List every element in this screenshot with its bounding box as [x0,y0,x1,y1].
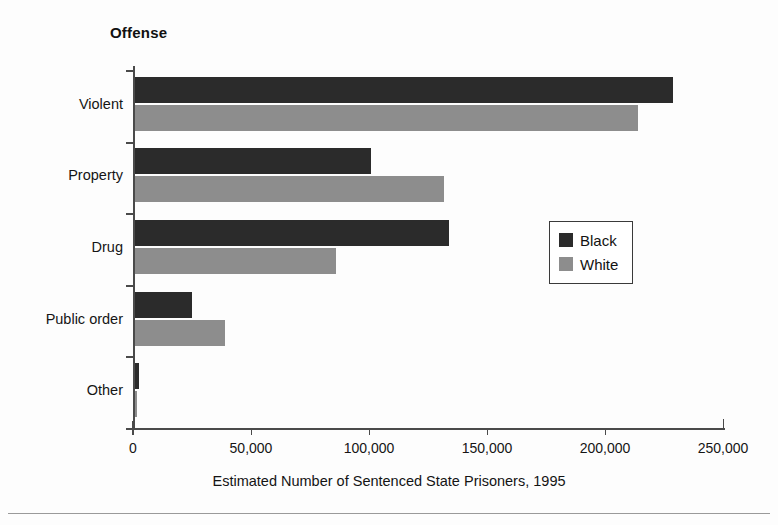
bar-white-drug [135,248,336,274]
x-axis-tick [723,419,724,429]
x-axis-tick [369,428,370,435]
bar-black-drug [135,220,449,246]
y-axis-tick [126,142,134,144]
legend-item-white[interactable]: White [559,252,618,276]
bar-white-violent [135,105,638,131]
x-axis-tick-label: 50,000 [230,440,273,456]
bar-black-property [135,148,371,174]
x-axis-tick-label: 200,000 [580,440,631,456]
chart-legend: Black White [549,221,633,284]
bar-white-public-order [135,320,225,346]
bar-white-property [135,176,444,202]
y-axis-tick [126,428,134,430]
x-axis-tick [251,428,252,435]
y-axis-category-label: Other [87,382,123,398]
bar-white-other [135,391,137,417]
x-axis-tick [605,428,606,435]
y-axis-category-label: Drug [92,239,123,255]
bottom-divider [8,513,770,514]
legend-swatch-black-icon [559,233,573,247]
legend-label-white: White [580,257,618,272]
y-axis-tick [126,70,134,72]
bar-black-other [135,363,139,389]
x-axis-tick-label: 150,000 [462,440,513,456]
y-axis-category-label: Property [68,167,123,183]
bar-black-public-order [135,292,192,318]
y-axis-tick [126,213,134,215]
x-axis-title: Estimated Number of Sentenced State Pris… [0,473,778,489]
x-axis-tick-label: 250,000 [698,440,749,456]
legend-swatch-white-icon [559,257,573,271]
x-axis-tick-label: 0 [129,440,137,456]
y-axis-tick [126,285,134,287]
x-axis-tick-label: 100,000 [344,440,395,456]
y-axis-category-label: Public order [46,311,123,327]
chart-title-offense: Offense [110,24,167,41]
x-axis-tick [487,428,488,435]
legend-item-black[interactable]: Black [559,228,618,252]
y-axis-tick [126,356,134,358]
legend-label-black: Black [580,233,617,248]
y-axis-category-label: Violent [79,96,123,112]
chart-figure: Offense 050,000100,000150,000200,000250,… [0,0,778,525]
bar-black-violent [135,77,673,103]
x-axis-line [133,428,725,430]
